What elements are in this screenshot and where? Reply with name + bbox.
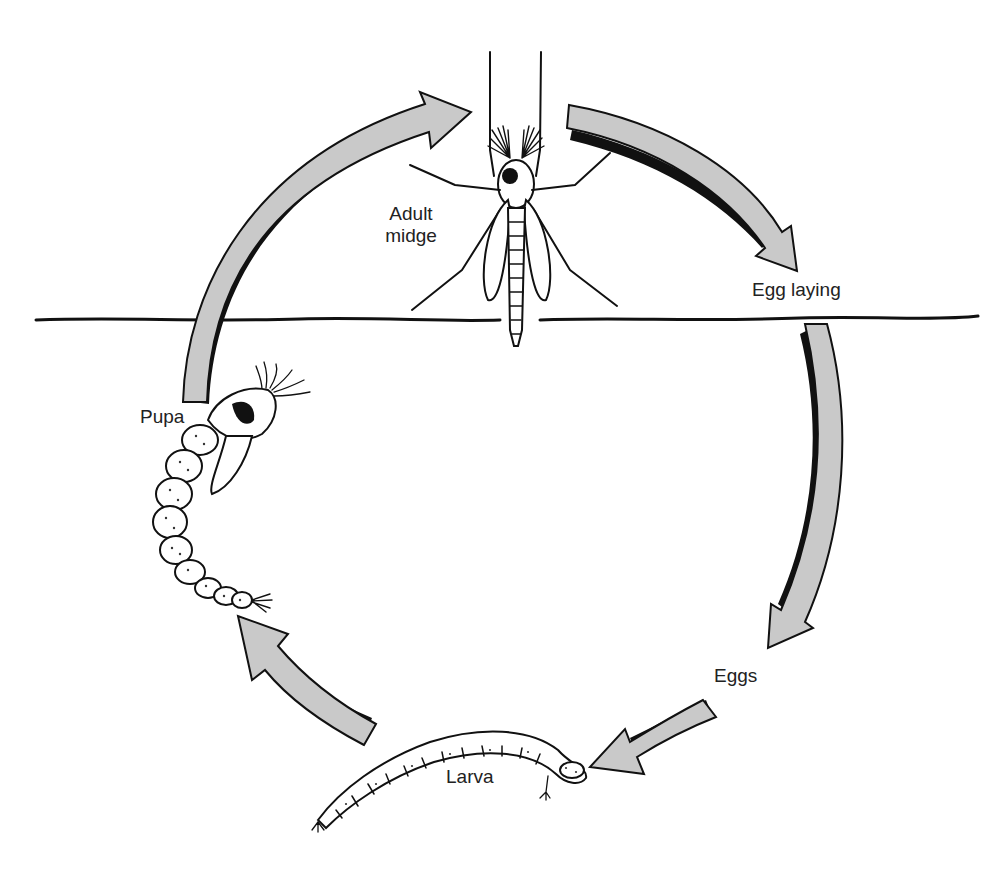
- label-adult-midge: Adult midge: [378, 203, 444, 247]
- label-pupa: Pupa: [140, 406, 184, 428]
- label-egg-laying: Egg laying: [752, 279, 841, 301]
- adult-midge-illustration: [410, 52, 617, 346]
- water-surface-line: [36, 316, 978, 320]
- label-adult-line2: midge: [378, 225, 444, 247]
- label-eggs: Eggs: [714, 665, 757, 687]
- arrow-egg-laying-to-eggs: [768, 324, 842, 648]
- arrow-larva-to-pupa: [238, 616, 376, 745]
- pupa-illustration: [153, 362, 310, 612]
- arrow-adult-to-egg-laying: [567, 105, 797, 271]
- life-cycle-diagram: [0, 0, 1008, 876]
- arrow-eggs-to-larva: [590, 700, 716, 774]
- label-larva: Larva: [446, 766, 494, 788]
- label-adult-line1: Adult: [378, 203, 444, 225]
- arrow-pupa-to-adult: [183, 92, 471, 404]
